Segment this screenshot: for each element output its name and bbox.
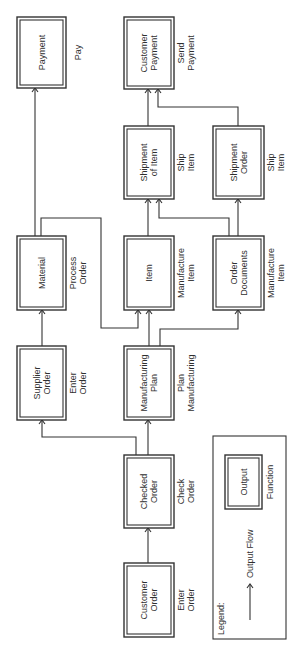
edge-manufacturing-plan-to-order-documents [160,310,241,346]
node-function-label: Enter [68,372,78,394]
edge-order-documents-to-shipment-order [235,199,241,236]
node-output-label: of Item [149,149,159,177]
edge-checked-order-to-supplier-order [39,420,136,455]
node-output-label: Shipment [139,143,149,182]
node-function-label: Item [276,264,286,282]
node-checked-order: CheckedOrderCheckOrder [124,455,196,528]
node-function-label: Manufacture [176,248,186,298]
node-shipment-order: ShipmentOrderShipItem [213,126,286,199]
edge-checked-order-to-manufacturing-plan [145,420,151,455]
node-function-label: Send [176,42,186,63]
legend-title: Legend: [216,602,226,635]
node-function-label: Item [276,154,286,172]
legend-output-flow-label: Output Flow [245,529,255,578]
node-function-label: Order [186,588,196,611]
node-output-label: Supplier [32,366,42,399]
node-material: MaterialProcessOrder [17,236,88,310]
diagram-canvas: PaymentPayCustomerPaymentSendPaymentShip… [0,0,303,652]
node-function-label: Ship [176,153,186,171]
node-output-label: Item [144,264,154,282]
node-output-label: Documents [239,250,249,296]
edge-manufacturing-plan-to-item [146,310,152,346]
edge-item-to-shipment-of-item [145,199,151,236]
edge-material-to-payment [32,88,38,236]
node-output-label: Order [149,588,159,611]
node-function-label: Plan [176,374,186,392]
node-function-label: Process [68,256,78,289]
node-output-label: Shipment [229,143,239,182]
edge-order-documents-to-shipment-of-item [156,199,229,236]
node-output-label: Order [42,371,52,394]
edge-shipment-order-to-customer-payment [155,89,238,126]
node-function-label: Check [176,478,186,504]
node-order-documents: OrderDocumentsManufactureItem [213,236,286,310]
node-customer-order: CustomerOrderEnterOrder [124,563,196,637]
legend: Legend: Output Flow Output Function [213,436,286,639]
node-output-label: Plan [149,374,159,392]
node-function-label: Manufacturing [186,354,196,411]
node-output-label: Payment [37,34,47,70]
node-output-label: Material [37,257,47,289]
node-output-label: Order [239,151,249,174]
node-function-label: Item [186,264,196,282]
legend-sample-function-label: Function [265,465,275,500]
edge-shipment-of-item-to-customer-payment [145,89,151,126]
node-output-label: Payment [149,35,159,71]
node-function-label: Ship [266,153,276,171]
edge-supplier-order-to-material [39,310,45,346]
node-customer-payment: CustomerPaymentSendPayment [124,17,196,89]
legend-sample-output-label: Output [239,468,249,496]
node-output-label: Customer [139,33,149,72]
node-payment: PaymentPay [17,17,83,88]
node-item: ItemManufactureItem [124,236,196,310]
node-output-label: Order [229,261,239,284]
node-function-label: Order [186,480,196,503]
node-function-label: Manufacture [266,248,276,298]
node-output-label: Customer [139,580,149,619]
output-flow-arrow-icon [247,584,253,620]
node-function-label: Order [78,371,88,394]
node-function-label: Pay [73,44,83,60]
edge-customer-order-to-checked-order [145,528,151,563]
node-output-label: Order [149,480,159,503]
node-manufacturing-plan: ManufacturingPlanPlanManufacturing [124,346,196,420]
node-function-label: Enter [176,589,186,611]
node-output-label: Manufacturing [139,354,149,411]
node-function-label: Payment [186,35,196,71]
node-supplier-order: SupplierOrderEnterOrder [17,346,88,420]
node-output-label: Checked [139,474,149,510]
node-function-label: Item [186,154,196,172]
node-function-label: Order [78,261,88,284]
node-shipment-of-item: Shipmentof ItemShipItem [124,126,196,199]
